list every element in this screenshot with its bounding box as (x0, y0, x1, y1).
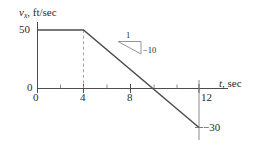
x-tick-label-8: 8 (127, 92, 133, 103)
slope-rise-label: 1 (126, 31, 130, 40)
chart-figure: vx, ft/sec 50 0 0 4 8 12 t, sec 1 −10 −3… (0, 0, 260, 153)
x-tick-label-12: 12 (201, 92, 212, 103)
x-axis-title: t, sec (219, 78, 242, 89)
velocity-curve (38, 30, 200, 128)
y-tick-label-50: 50 (19, 24, 30, 35)
x-tick-label-0: 0 (33, 92, 39, 103)
endpoint-value-label: −30 (203, 122, 220, 133)
y-axis-title: vx, ft/sec (19, 7, 57, 19)
y-axis-units: , ft/sec (27, 6, 56, 18)
slope-triangle-icon (118, 42, 141, 55)
x-tick-label-4: 4 (80, 92, 86, 103)
slope-run-label: −10 (143, 46, 156, 55)
y-tick-label-0: 0 (27, 82, 33, 93)
x-axis-units: , sec (222, 77, 242, 89)
